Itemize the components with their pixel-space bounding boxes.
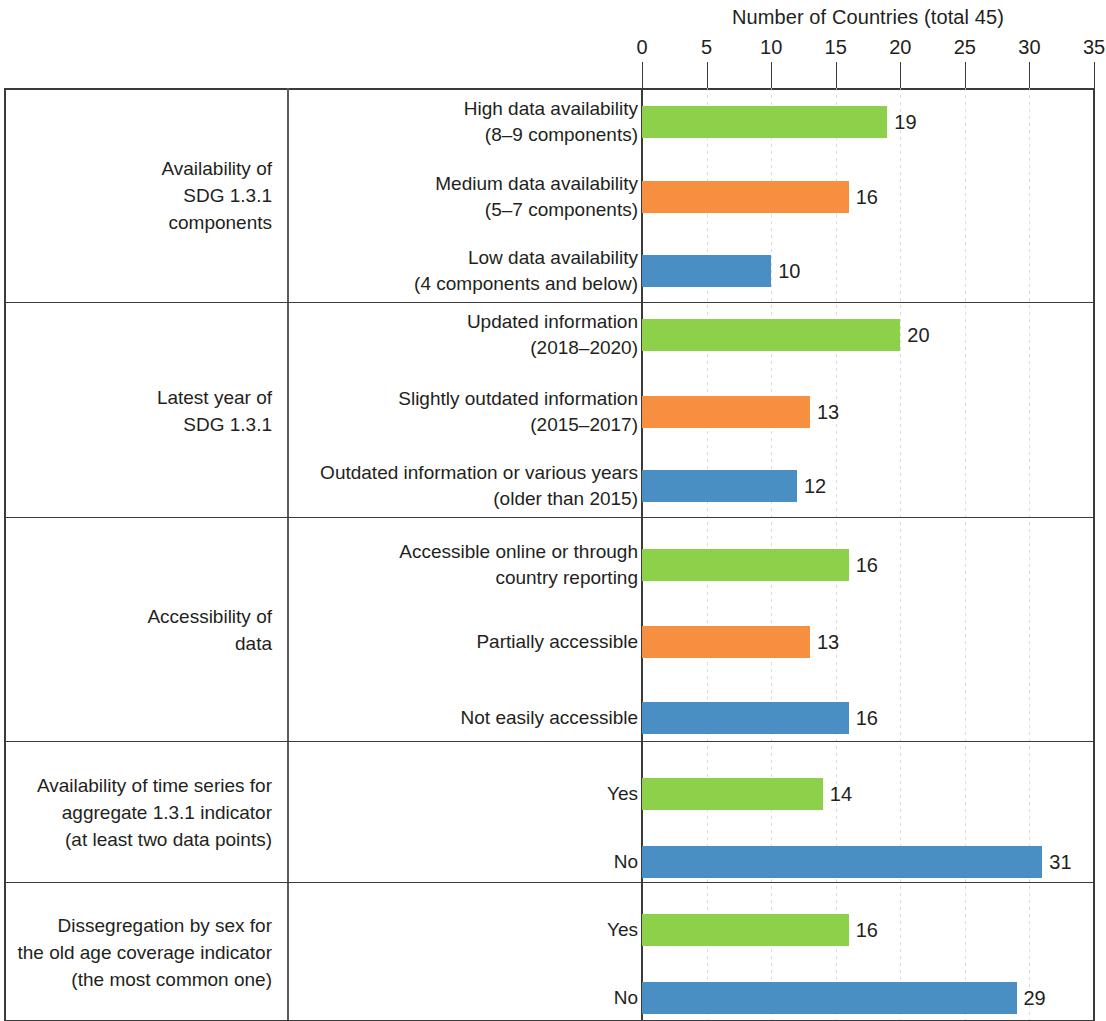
group-title: Dissegregation by sex for the old age co… bbox=[4, 912, 272, 993]
x-tick-label-0: 0 bbox=[636, 36, 647, 59]
x-tick-mark-20 bbox=[900, 62, 901, 88]
bar-label: Outdated information or various years (o… bbox=[296, 460, 638, 512]
chart-group: Availability of SDG 1.3.1 componentsHigh… bbox=[4, 88, 1094, 303]
bar-label: Slightly outdated information (2015–2017… bbox=[296, 386, 638, 438]
bar bbox=[642, 106, 887, 138]
bar-value-label: 16 bbox=[856, 181, 878, 213]
bar bbox=[642, 702, 849, 734]
chart-group: Availability of time series for aggregat… bbox=[4, 742, 1094, 883]
chart-group: Latest year of SDG 1.3.1Updated informat… bbox=[4, 303, 1094, 518]
bar-label: No bbox=[296, 849, 638, 875]
bar-value-label: 16 bbox=[856, 702, 878, 734]
x-axis-tick-labels: 05101520253035 bbox=[0, 36, 1106, 60]
bar-value-label: 29 bbox=[1024, 982, 1046, 1014]
bar bbox=[642, 626, 810, 658]
bar-label: Updated information (2018–2020) bbox=[296, 309, 638, 361]
bar-value-label: 16 bbox=[856, 914, 878, 946]
x-tick-label-10: 10 bbox=[760, 36, 782, 59]
x-tick-mark-15 bbox=[836, 62, 837, 88]
x-tick-label-20: 20 bbox=[889, 36, 911, 59]
bar-label: Yes bbox=[296, 781, 638, 807]
bar bbox=[642, 255, 771, 287]
x-tick-label-35: 35 bbox=[1083, 36, 1105, 59]
group-title: Availability of time series for aggregat… bbox=[4, 772, 272, 853]
chart-axis-title: Number of Countries (total 45) bbox=[642, 6, 1094, 29]
group-title: Availability of SDG 1.3.1 components bbox=[4, 155, 272, 236]
bar bbox=[642, 982, 1017, 1014]
x-tick-label-5: 5 bbox=[701, 36, 712, 59]
bar-label: Yes bbox=[296, 917, 638, 943]
bar-value-label: 10 bbox=[778, 255, 800, 287]
group-title: Latest year of SDG 1.3.1 bbox=[4, 384, 272, 438]
bar bbox=[642, 549, 849, 581]
chart-group: Dissegregation by sex for the old age co… bbox=[4, 883, 1094, 1021]
bar-label: Medium data availability (5–7 components… bbox=[296, 171, 638, 223]
bar-value-label: 31 bbox=[1049, 846, 1071, 878]
x-tick-mark-35 bbox=[1094, 62, 1095, 88]
bar-label: Not easily accessible bbox=[296, 705, 638, 731]
bar-value-label: 12 bbox=[804, 470, 826, 502]
bar-label: Low data availability (4 components and … bbox=[296, 245, 638, 297]
bar bbox=[642, 396, 810, 428]
bar-value-label: 14 bbox=[830, 778, 852, 810]
chart-figure: Number of Countries (total 45) 051015202… bbox=[0, 0, 1106, 1021]
bar bbox=[642, 846, 1042, 878]
x-tick-label-15: 15 bbox=[825, 36, 847, 59]
bar-value-label: 13 bbox=[817, 396, 839, 428]
bar bbox=[642, 470, 797, 502]
x-tick-mark-30 bbox=[1029, 62, 1030, 88]
bar-value-label: 19 bbox=[894, 106, 916, 138]
bar bbox=[642, 181, 849, 213]
bar-value-label: 20 bbox=[907, 319, 929, 351]
bar bbox=[642, 914, 849, 946]
bar bbox=[642, 319, 900, 351]
bar-label: Partially accessible bbox=[296, 629, 638, 655]
group-title: Accessibility of data bbox=[4, 603, 272, 657]
bar-value-label: 13 bbox=[817, 626, 839, 658]
bar-label: High data availability (8–9 components) bbox=[296, 96, 638, 148]
x-tick-mark-25 bbox=[965, 62, 966, 88]
x-tick-mark-5 bbox=[707, 62, 708, 88]
x-tick-mark-10 bbox=[771, 62, 772, 88]
x-tick-mark-0 bbox=[642, 62, 643, 88]
chart-group: Accessibility of dataAccessible online o… bbox=[4, 518, 1094, 742]
bar-label: No bbox=[296, 985, 638, 1011]
x-tick-label-30: 30 bbox=[1018, 36, 1040, 59]
bar-value-label: 16 bbox=[856, 549, 878, 581]
x-tick-label-25: 25 bbox=[954, 36, 976, 59]
bar bbox=[642, 778, 823, 810]
bar-label: Accessible online or through country rep… bbox=[296, 539, 638, 591]
